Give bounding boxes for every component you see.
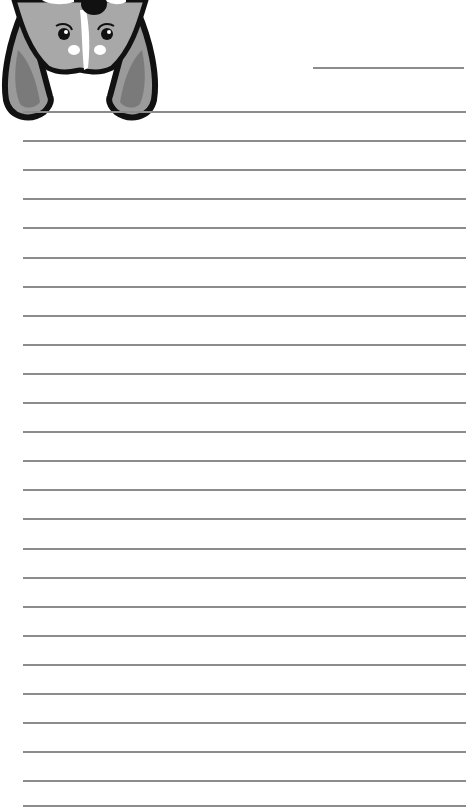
ruled-line xyxy=(23,169,466,171)
ruled-line xyxy=(23,140,466,142)
ruled-line xyxy=(23,780,466,782)
ruled-line xyxy=(23,548,466,550)
ruled-line xyxy=(23,635,466,637)
ruled-line xyxy=(23,518,466,520)
corgi-upside-down-icon xyxy=(0,0,160,122)
ruled-line xyxy=(23,286,466,288)
ruled-line xyxy=(23,693,466,695)
ruled-line xyxy=(23,431,466,433)
notepad-page xyxy=(0,0,475,807)
ruled-line-bottom xyxy=(23,805,466,807)
ruled-line xyxy=(23,111,466,113)
ruled-line xyxy=(23,722,466,724)
ruled-line xyxy=(23,257,466,259)
ruled-line xyxy=(23,198,466,200)
ruled-line xyxy=(23,460,466,462)
ruled-line xyxy=(23,402,466,404)
ruled-line xyxy=(23,664,466,666)
ruled-line xyxy=(23,344,466,346)
title-line xyxy=(313,67,464,69)
ruled-line xyxy=(23,606,466,608)
ruled-line xyxy=(23,227,466,229)
ruled-line xyxy=(23,315,466,317)
ruled-line xyxy=(23,751,466,753)
ruled-line xyxy=(23,577,466,579)
ruled-line xyxy=(23,373,466,375)
ruled-line xyxy=(23,489,466,491)
